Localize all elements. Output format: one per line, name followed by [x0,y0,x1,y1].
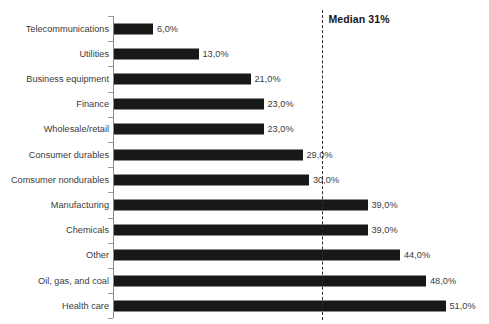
bar-row: Manufacturing39,0% [0,192,489,217]
bar-row: Finance23,0% [0,92,489,117]
bar-row: Utilities13,0% [0,41,489,66]
bar-value-label: 30,0% [313,175,339,185]
bar-value-label: 29,0% [307,150,333,160]
bar-category-label: Other [86,250,109,260]
bar-row: Other44,0% [0,243,489,268]
bar-row: Telecommunications6,0% [0,16,489,41]
bar-row: Consumer durables29,0% [0,142,489,167]
bar-value-label: 23,0% [268,124,294,134]
bar-value-label: 21,0% [255,74,281,84]
bar-category-label: Consumer durables [29,150,109,160]
bar-category-label: Wholesale/retail [44,124,109,134]
bar-value-label: 48,0% [430,276,456,286]
plot-area: Telecommunications6,0%Utilities13,0%Busi… [0,0,489,324]
bar-row: Oil, gas, and coal48,0% [0,268,489,293]
bar-category-label: Telecommunications [26,24,109,34]
bar-row: Wholesale/retail23,0% [0,117,489,142]
bar [114,23,153,34]
bar-category-label: Health care [62,301,109,311]
bar-value-label: 23,0% [268,99,294,109]
bar-chart: Telecommunications6,0%Utilities13,0%Busi… [0,0,489,324]
bar [114,225,368,236]
bar [114,73,251,84]
bar-category-label: Comsumer nondurables [11,175,109,185]
bar-category-label: Utilities [79,49,109,59]
median-reference-line [322,10,323,320]
bar-row: Business equipment21,0% [0,66,489,91]
bar-value-label: 44,0% [404,250,430,260]
bar [114,174,309,185]
bar [114,275,426,286]
bar-category-label: Manufacturing [51,200,109,210]
bar-value-label: 39,0% [372,200,398,210]
bar-value-label: 13,0% [203,49,229,59]
bar-value-label: 39,0% [372,225,398,235]
bar-value-label: 51,0% [450,301,476,311]
bar-category-label: Finance [76,99,109,109]
bar-row: Chemicals39,0% [0,218,489,243]
bar-category-label: Oil, gas, and coal [38,276,109,286]
bar [114,48,199,59]
bar-category-label: Business equipment [26,74,109,84]
bar-row: Comsumer nondurables30,0% [0,167,489,192]
bar [114,149,303,160]
axis-tick [108,318,113,319]
bar [114,300,446,311]
bar-row: Health care51,0% [0,293,489,318]
bar [114,199,368,210]
bar [114,99,264,110]
median-annotation-label: Median 31% [329,13,390,25]
bar [114,250,400,261]
bar [114,124,264,135]
bar-value-label: 6,0% [157,24,178,34]
bar-category-label: Chemicals [66,225,109,235]
